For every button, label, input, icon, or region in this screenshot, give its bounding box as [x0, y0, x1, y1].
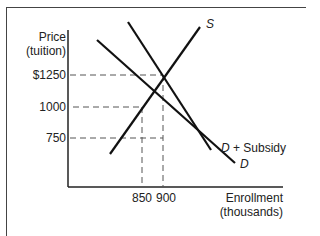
demand-label: D [240, 157, 249, 171]
x-tick-900: 900 [156, 191, 176, 205]
demand-subsidy-label-d: D [221, 141, 230, 155]
y-tick-750: 750 [46, 131, 66, 145]
x-tick-850: 850 [132, 191, 152, 205]
y-tick-1000: 1000 [39, 100, 66, 114]
supply-curve [110, 27, 200, 154]
demand-subsidy-curve [128, 22, 211, 150]
guide-lines [70, 75, 163, 187]
y-tick-1250: $1250 [33, 68, 66, 82]
demand-subsidy-label: D + Subsidy [221, 141, 286, 155]
x-axis-title-line1: Enrollment [226, 191, 283, 205]
y-axis-title-line2: (tuition) [26, 44, 66, 58]
y-axis-title-line1: Price [39, 30, 66, 44]
x-axis-title-line2: (thousands) [220, 205, 283, 219]
supply-label: S [206, 17, 214, 31]
demand-subsidy-label-rest: + Subsidy [230, 141, 286, 155]
